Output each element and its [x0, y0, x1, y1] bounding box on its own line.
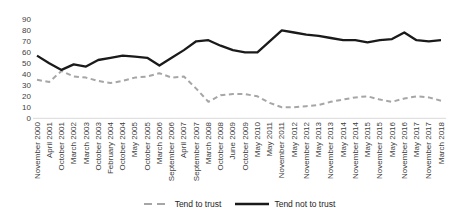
- y-axis-tick-label: 40: [7, 70, 31, 79]
- x-axis-tick-label: March 2018: [437, 122, 446, 202]
- x-axis-tick-label: April 2007: [179, 122, 188, 202]
- x-axis-tick-label: May 2016: [388, 122, 397, 202]
- x-axis-tick-label: October 2004: [118, 122, 127, 202]
- x-axis-tick-label: May 2015: [363, 122, 372, 202]
- x-axis-tick-label: November 2011: [277, 122, 286, 202]
- x-axis-tick-label: November 2012: [302, 122, 311, 202]
- y-axis-tick-label: 50: [7, 59, 31, 68]
- x-axis-tick-label: March 2008: [204, 122, 213, 202]
- trust-line-chart: 0102030405060708090 November 2000April 2…: [0, 0, 449, 222]
- x-axis-tick-label: May 2013: [314, 122, 323, 202]
- x-axis-tick-label: May 2012: [290, 122, 299, 202]
- series-line-1: [37, 30, 441, 70]
- y-axis-tick-label: 20: [7, 92, 31, 101]
- y-axis-tick-label: 70: [7, 37, 31, 46]
- x-axis-tick-label: November 2017: [424, 122, 433, 202]
- x-axis-tick-label: May 2005: [130, 122, 139, 202]
- x-axis-tick-label: November 2014: [351, 122, 360, 202]
- x-axis-tick-label: October 2009: [241, 122, 250, 202]
- x-axis-tick-label: May 2011: [265, 122, 274, 202]
- x-axis-tick-label: November 2016: [400, 122, 409, 202]
- x-axis-tick-label: April 2001: [45, 122, 54, 202]
- y-axis-tick-label: 10: [7, 103, 31, 112]
- y-axis-tick-label: 60: [7, 48, 31, 57]
- x-axis-tick-label: March 2006: [155, 122, 164, 202]
- x-axis-tick-label: May 2017: [412, 122, 421, 202]
- x-axis-tick-label: September 2007: [192, 122, 201, 202]
- x-axis-tick-label: November 2000: [33, 122, 42, 202]
- y-axis-tick-label: 30: [7, 81, 31, 90]
- y-axis-tick-label: 90: [7, 15, 31, 24]
- legend: Tend to trustTend not to trust: [30, 199, 449, 209]
- x-axis-tick-label: October 2005: [143, 122, 152, 202]
- legend-label: Tend not to trust: [274, 199, 335, 209]
- x-axis-tick-label: October 2001: [57, 122, 66, 202]
- y-axis-tick-label: 80: [7, 26, 31, 35]
- legend-item-1: Tend not to trust: [235, 199, 335, 209]
- x-axis-tick-label: November 2013: [326, 122, 335, 202]
- x-axis-tick-label: March 2002: [69, 122, 78, 202]
- legend-label: Tend to trust: [175, 199, 222, 209]
- x-axis-tick-label: November 2015: [375, 122, 384, 202]
- x-axis-tick-label: September 2006: [167, 122, 176, 202]
- series-line-0: [37, 71, 441, 107]
- x-axis-tick-label: May 2014: [339, 122, 348, 202]
- x-axis-tick-label: February 2004: [106, 122, 115, 202]
- y-axis-tick-label: 0: [7, 114, 31, 123]
- x-axis-tick-label: October 2003: [94, 122, 103, 202]
- x-axis-tick-label: October 2008: [216, 122, 225, 202]
- x-axis-tick-label: June 2009: [228, 122, 237, 202]
- legend-item-0: Tend to trust: [144, 199, 222, 209]
- x-axis-tick-label: May 2010: [253, 122, 262, 202]
- x-axis-tick-label: March 2003: [82, 122, 91, 202]
